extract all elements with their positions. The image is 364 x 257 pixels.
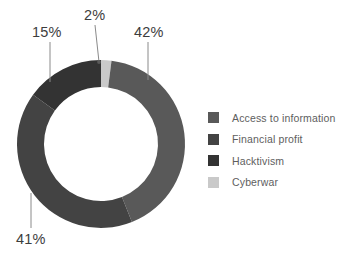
slice-value-label-access-to-information: 42%: [134, 25, 164, 40]
legend-label-access-to-information: Access to information: [232, 113, 336, 124]
legend-swatch-access-to-information: [208, 112, 219, 123]
legend-label-cyberwar: Cyberwar: [232, 177, 278, 188]
donut-slice-financial-profit: [17, 95, 132, 228]
slice-value-label-hacktivism: 15%: [32, 25, 62, 40]
slice-value-label-financial-profit: 41%: [16, 232, 46, 247]
legend-swatch-cyberwar: [208, 177, 219, 188]
legend-item-access-to-information[interactable]: Access to information: [208, 107, 358, 129]
legend-item-cyberwar[interactable]: Cyberwar: [208, 172, 358, 194]
donut-slice-group: [17, 60, 185, 228]
donut-chart-figure: 42% 2% 15% 41% Access to informationFina…: [0, 0, 364, 257]
legend-swatch-hacktivism: [208, 155, 219, 166]
legend-item-financial-profit[interactable]: Financial profit: [208, 129, 358, 151]
leader-line-cyberwar: [95, 25, 99, 62]
leader-endpoint-dot-cyberwar: [97, 60, 101, 64]
legend-item-hacktivism[interactable]: Hacktivism: [208, 150, 358, 172]
legend-label-financial-profit: Financial profit: [232, 134, 303, 145]
legend-swatch-financial-profit: [208, 134, 219, 145]
slice-value-label-cyberwar: 2%: [84, 8, 105, 23]
legend-label-hacktivism: Hacktivism: [232, 156, 284, 167]
chart-legend: Access to informationFinancial profitHac…: [208, 107, 358, 193]
